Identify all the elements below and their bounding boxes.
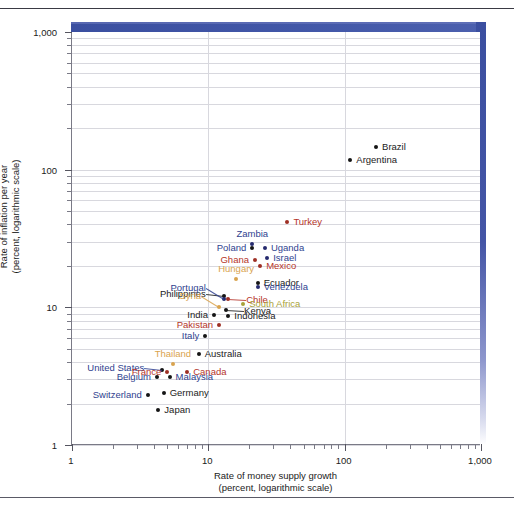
y-axis-tick	[67, 53, 72, 54]
y-axis-tick	[67, 128, 72, 129]
data-point-label: Brazil	[382, 142, 406, 152]
y-axis-tick	[65, 32, 72, 33]
y-axis-title: Rate of inflation per year (percent, log…	[0, 122, 21, 312]
y-axis-tick	[67, 191, 72, 192]
data-point[interactable]	[171, 362, 175, 366]
data-point[interactable]	[168, 375, 172, 379]
x-axis-tick	[481, 444, 482, 451]
x-axis-tick	[460, 444, 461, 449]
x-axis-tick-label: 1,000	[468, 455, 492, 466]
data-point[interactable]	[212, 313, 216, 317]
gridline-horizontal	[72, 211, 480, 212]
gridline-horizontal	[72, 445, 480, 446]
data-point[interactable]	[226, 314, 230, 318]
data-point-label: Zambia	[236, 229, 268, 239]
gridline-vertical	[345, 32, 346, 444]
gridline-horizontal	[72, 53, 480, 54]
x-axis-tick-label: 100	[336, 455, 352, 466]
gridline-horizontal	[72, 73, 480, 74]
x-axis-tick	[178, 444, 179, 449]
y-axis-tick	[67, 63, 72, 64]
y-axis-tick	[67, 176, 72, 177]
x-axis-tick	[154, 444, 155, 449]
plot-area: BrazilArgentinaTurkeyZambiaPolandUgandaI…	[71, 32, 480, 445]
y-axis-tick	[67, 338, 72, 339]
y-axis-tick	[67, 266, 72, 267]
y-axis-tick	[67, 242, 72, 243]
decorative-band-top-highlight	[71, 22, 486, 24]
gridline-horizontal	[72, 338, 480, 339]
data-point[interactable]	[217, 323, 221, 327]
data-point[interactable]	[258, 264, 262, 268]
data-point-label: Venezuela	[264, 282, 308, 292]
gridline-horizontal	[72, 191, 480, 192]
y-axis-title-line2: (percent, logarithmic scale)	[9, 122, 21, 312]
data-point[interactable]	[256, 285, 260, 289]
gridline-horizontal	[72, 329, 480, 330]
data-point[interactable]	[203, 334, 207, 338]
x-axis-tick	[468, 444, 469, 449]
x-axis-title-line2: (percent, logarithmic scale)	[71, 482, 480, 494]
data-point[interactable]	[146, 393, 150, 397]
data-point-label: Thailand	[155, 349, 191, 359]
data-point[interactable]	[165, 370, 169, 374]
x-axis-tick	[440, 444, 441, 449]
y-axis-tick	[67, 349, 72, 350]
data-point[interactable]	[374, 145, 378, 149]
y-axis-tick	[67, 183, 72, 184]
data-point-label: Pakistan	[177, 320, 213, 330]
x-axis-tick	[113, 444, 114, 449]
x-axis-tick	[304, 444, 305, 449]
data-point-label: Indonesia	[234, 311, 275, 321]
gridline-horizontal	[72, 321, 480, 322]
x-axis-tick	[314, 444, 315, 449]
data-point-label: Hungary	[218, 264, 254, 274]
gridline-horizontal	[72, 87, 480, 88]
gridline-horizontal	[72, 404, 480, 405]
y-axis-tick	[67, 38, 72, 39]
x-axis-tick	[290, 444, 291, 449]
x-axis-tick	[137, 444, 138, 449]
y-axis-tick	[67, 404, 72, 405]
x-axis-tick	[167, 444, 168, 449]
y-axis-tick	[67, 314, 72, 315]
x-axis-tick	[386, 444, 387, 449]
gridline-horizontal	[72, 38, 480, 39]
data-point[interactable]	[234, 277, 238, 281]
data-point-label: Italy	[182, 331, 199, 341]
y-axis-tick	[65, 307, 72, 308]
y-axis-tick	[67, 211, 72, 212]
data-point-label: Germany	[170, 388, 209, 398]
data-point[interactable]	[348, 158, 352, 162]
data-point-label: Belgium	[117, 372, 151, 382]
y-axis-tick	[67, 379, 72, 380]
x-axis-tick-label: 10	[202, 455, 213, 466]
data-point[interactable]	[162, 391, 166, 395]
gridline-horizontal	[72, 349, 480, 350]
y-axis-tick	[67, 87, 72, 88]
data-point-label: Syria	[179, 291, 201, 301]
y-axis-tick-label: 1	[52, 440, 57, 451]
x-axis-tick	[345, 444, 346, 451]
y-axis-tick	[67, 321, 72, 322]
data-point-label: Mexico	[266, 261, 296, 271]
x-axis-tick	[338, 444, 339, 449]
y-axis-tick	[65, 445, 72, 446]
data-point[interactable]	[197, 352, 201, 356]
data-point[interactable]	[156, 408, 160, 412]
top-divider-rule	[0, 8, 514, 9]
data-point-label: Poland	[217, 243, 247, 253]
data-point[interactable]	[155, 375, 159, 379]
gridline-horizontal	[72, 104, 480, 105]
x-axis-tick	[195, 444, 196, 449]
data-point-label: Australia	[205, 349, 242, 359]
x-axis-tick	[273, 444, 274, 449]
data-point[interactable]	[253, 258, 257, 262]
y-axis-tick	[67, 224, 72, 225]
x-axis-tick	[410, 444, 411, 449]
bottom-divider-rule	[0, 497, 514, 498]
data-point[interactable]	[285, 220, 289, 224]
gridline-horizontal	[72, 176, 480, 177]
data-point[interactable]	[250, 246, 254, 250]
data-point[interactable]	[263, 246, 267, 250]
